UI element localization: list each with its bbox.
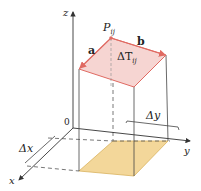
delta-x-label: Δx — [18, 142, 34, 155]
z-axis-label: z — [62, 7, 69, 18]
point-pij — [109, 36, 113, 40]
origin-label: 0 — [64, 117, 70, 127]
vector-b-label: b — [137, 35, 145, 48]
point-label: Pij — [102, 21, 116, 36]
y-axis — [73, 128, 190, 141]
y-axis-label: y — [183, 145, 190, 156]
tangent-plane-diagram: z x y 0 Pij a b ΔTij Δx Δy — [0, 0, 201, 191]
x-axis-label: x — [9, 175, 15, 186]
vector-a-label: a — [88, 44, 95, 57]
delta-y-label: Δy — [145, 109, 161, 122]
base-rectangle — [79, 141, 168, 176]
